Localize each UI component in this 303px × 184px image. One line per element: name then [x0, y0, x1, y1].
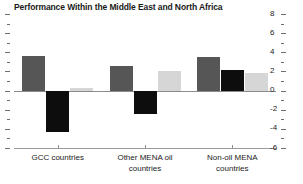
- bar-series-3-group-1: [158, 71, 181, 90]
- y-axis-tick-label: -2: [270, 105, 296, 113]
- x-axis-category-label: GCC countries: [14, 152, 101, 163]
- y-axis-tick-label: 8: [270, 10, 296, 18]
- plot-area: [14, 14, 276, 148]
- y-tick-left-minor: [7, 62, 10, 63]
- y-tick-left-minor: [7, 138, 10, 139]
- bar-series-1-group-2: [197, 57, 220, 91]
- y-tick-left-minor: [7, 24, 10, 25]
- y-tick-minor: [281, 62, 284, 63]
- y-tick-left-major: [5, 14, 10, 15]
- bar-series-1-group-0: [22, 56, 45, 90]
- y-axis-tick-label: 6: [270, 29, 296, 37]
- y-axis-tick-label: -4: [270, 124, 296, 132]
- y-tick-left-major: [5, 71, 10, 72]
- bar-series-3-group-2: [245, 73, 268, 90]
- bar-series-2-group-2: [221, 70, 244, 90]
- y-tick-left-major: [5, 91, 10, 92]
- y-tick-left-minor: [7, 81, 10, 82]
- y-tick-minor: [281, 43, 284, 44]
- y-tick-left-minor: [7, 43, 10, 44]
- chart-title: Performance Within the Middle East and N…: [14, 2, 222, 12]
- y-tick-minor: [281, 24, 284, 25]
- y-axis-tick-label: 0: [270, 86, 296, 94]
- y-tick-left-major: [5, 110, 10, 111]
- x-axis-category-label: Non-oil MENA countries: [189, 152, 276, 174]
- y-tick-minor: [281, 138, 284, 139]
- y-tick-minor: [281, 119, 284, 120]
- bar-series-2-group-1: [134, 91, 157, 114]
- y-tick-left-major: [5, 33, 10, 34]
- x-axis-category-label: Other MENA oil countries: [101, 152, 188, 174]
- y-tick-left-minor: [7, 100, 10, 101]
- y-axis-tick-label: 2: [270, 67, 296, 75]
- x-tick: [58, 145, 59, 148]
- y-tick-left-major: [5, 52, 10, 53]
- y-axis-tick-label: -6: [270, 144, 296, 152]
- bar-series-1-group-1: [110, 66, 133, 91]
- bar-series-3-group-0: [70, 88, 93, 91]
- x-tick: [145, 145, 146, 148]
- y-tick-left-minor: [7, 119, 10, 120]
- chart-container: Performance Within the Middle East and N…: [0, 0, 303, 184]
- y-tick-left-major: [5, 129, 10, 130]
- y-tick-minor: [281, 100, 284, 101]
- y-tick-minor: [281, 81, 284, 82]
- y-axis-tick-label: 4: [270, 48, 296, 56]
- y-tick-left-major: [5, 148, 10, 149]
- bar-series-2-group-0: [46, 91, 69, 132]
- x-tick: [232, 145, 233, 148]
- x-axis-line: [14, 148, 276, 149]
